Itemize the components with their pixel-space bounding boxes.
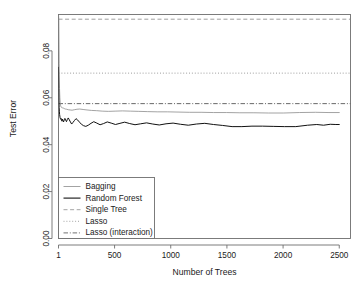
legend-label-bagging: Bagging xyxy=(86,182,116,191)
data-layer xyxy=(59,15,351,127)
x-tick-label: 1 xyxy=(56,251,61,260)
legend-label-random-forest: Random Forest xyxy=(86,194,143,203)
chart-figure: 150010001500200025000.000.020.040.060.08… xyxy=(0,0,363,291)
y-tick-label: 0.06 xyxy=(42,89,51,105)
x-axis-title: Number of Trees xyxy=(173,267,237,277)
x-tick-label: 2500 xyxy=(330,251,349,260)
y-tick-label: 0.08 xyxy=(42,42,51,58)
x-tick-label: 2000 xyxy=(274,251,293,260)
series-bagging xyxy=(59,15,340,114)
x-tick-label: 1000 xyxy=(162,251,181,260)
x-tick-label: 500 xyxy=(108,251,122,260)
legend-label-lasso-interaction: Lasso (interaction) xyxy=(86,228,154,237)
x-tick-label: 1500 xyxy=(218,251,237,260)
legend-label-lasso: Lasso xyxy=(86,217,108,226)
y-tick-label: 0.04 xyxy=(42,136,51,152)
legend: BaggingRandom ForestSingle TreeLassoLass… xyxy=(59,178,155,239)
test-error-vs-number-of-trees-chart: 150010001500200025000.000.020.040.060.08… xyxy=(0,0,363,291)
series-random-forest xyxy=(59,67,340,126)
legend-label-single-tree: Single Tree xyxy=(86,205,128,214)
y-tick-label: 0.02 xyxy=(42,183,51,199)
y-tick-label: 0.00 xyxy=(42,230,51,246)
y-axis-title: Test Error xyxy=(8,100,18,137)
